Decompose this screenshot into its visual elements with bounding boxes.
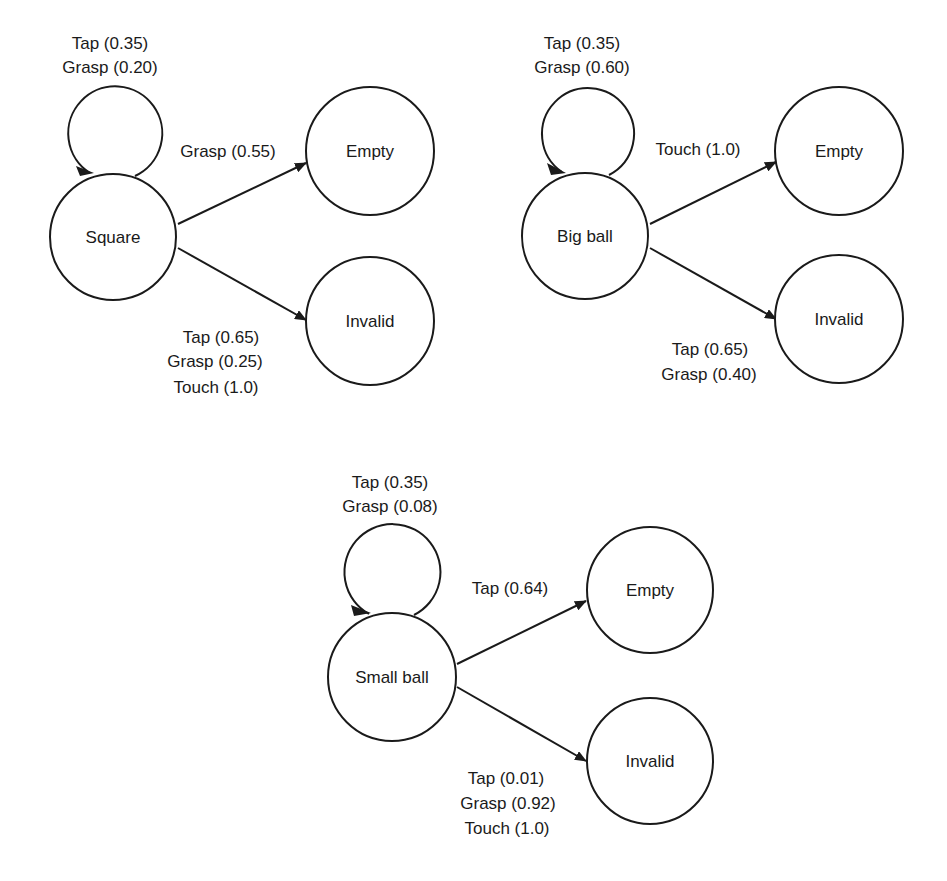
edge-big-ball-to-invalid xyxy=(650,248,776,319)
self-loop-arc xyxy=(68,86,162,176)
self-loop-arc xyxy=(344,524,440,615)
self-loop-label-line-1: Tap (0.35) xyxy=(352,473,429,492)
edge-invalid-label-line-2: Grasp (0.40) xyxy=(661,365,756,384)
edge-empty-label-line-1: Tap (0.64) xyxy=(472,579,549,598)
edge-empty-label-line-1: Grasp (0.55) xyxy=(180,142,275,161)
self-loop-label-line-2: Grasp (0.60) xyxy=(534,58,629,77)
edge-empty-label-line-1: Touch (1.0) xyxy=(655,140,740,159)
self-loop-label-line-2: Grasp (0.08) xyxy=(342,497,437,516)
edge-invalid-label-line-1: Tap (0.65) xyxy=(672,340,749,359)
edge-invalid-label-line-3: Touch (1.0) xyxy=(173,378,258,397)
edge-invalid-label-line-1: Tap (0.01) xyxy=(468,769,545,788)
diagram-big-ball: Tap (0.35) Grasp (0.60) Big ball Empty I… xyxy=(522,34,903,384)
self-loop-arc xyxy=(542,88,634,175)
node-big-ball-label: Big ball xyxy=(557,227,613,246)
self-loop-label-line-1: Tap (0.35) xyxy=(72,34,149,53)
node-empty-label: Empty xyxy=(626,581,675,600)
node-square-label: Square xyxy=(86,228,141,247)
edge-invalid-label-line-2: Grasp (0.25) xyxy=(167,352,262,371)
self-loop-arrowhead-icon xyxy=(547,163,566,175)
edge-small-ball-to-empty xyxy=(457,601,586,664)
self-loop-label-line-1: Tap (0.35) xyxy=(544,34,621,53)
edge-square-to-empty xyxy=(178,163,306,224)
node-invalid-label: Invalid xyxy=(625,752,674,771)
node-empty-label: Empty xyxy=(346,142,395,161)
node-small-ball-label: Small ball xyxy=(355,668,429,687)
edge-invalid-label-line-1: Tap (0.65) xyxy=(183,328,260,347)
self-loop-big-ball: Tap (0.35) Grasp (0.60) xyxy=(534,34,634,175)
self-loop-square: Tap (0.35) Grasp (0.20) xyxy=(62,34,162,176)
edge-invalid-label-line-2: Grasp (0.92) xyxy=(460,794,555,813)
self-loop-arrowhead-icon xyxy=(76,166,94,176)
node-invalid-label: Invalid xyxy=(345,312,394,331)
self-loop-label-line-2: Grasp (0.20) xyxy=(62,58,157,77)
node-empty-label: Empty xyxy=(815,142,864,161)
state-transition-diagrams: Tap (0.35) Grasp (0.20) Square Empty Inv… xyxy=(0,0,947,881)
node-invalid-label: Invalid xyxy=(814,310,863,329)
edge-square-to-invalid xyxy=(178,248,306,320)
diagram-square: Tap (0.35) Grasp (0.20) Square Empty Inv… xyxy=(50,34,434,397)
edge-invalid-label-line-3: Touch (1.0) xyxy=(464,819,549,838)
diagram-small-ball: Tap (0.35) Grasp (0.08) Small ball Empty… xyxy=(328,473,713,838)
edge-big-ball-to-empty xyxy=(650,162,776,224)
edge-small-ball-to-invalid xyxy=(457,687,586,761)
self-loop-small-ball: Tap (0.35) Grasp (0.08) xyxy=(342,473,440,616)
